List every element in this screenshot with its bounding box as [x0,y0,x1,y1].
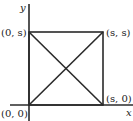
label-0s: (0, s) [1,27,27,38]
square-diagram: y x (0, s) (s, s) (0, 0) (s, 0) [0,0,133,121]
label-ss: (s, s) [106,27,131,38]
y-axis-label: y [19,2,26,13]
label-s0: (s, 0) [106,93,132,104]
label-origin: (0, 0) [1,108,28,119]
x-axis-label: x [126,107,132,118]
